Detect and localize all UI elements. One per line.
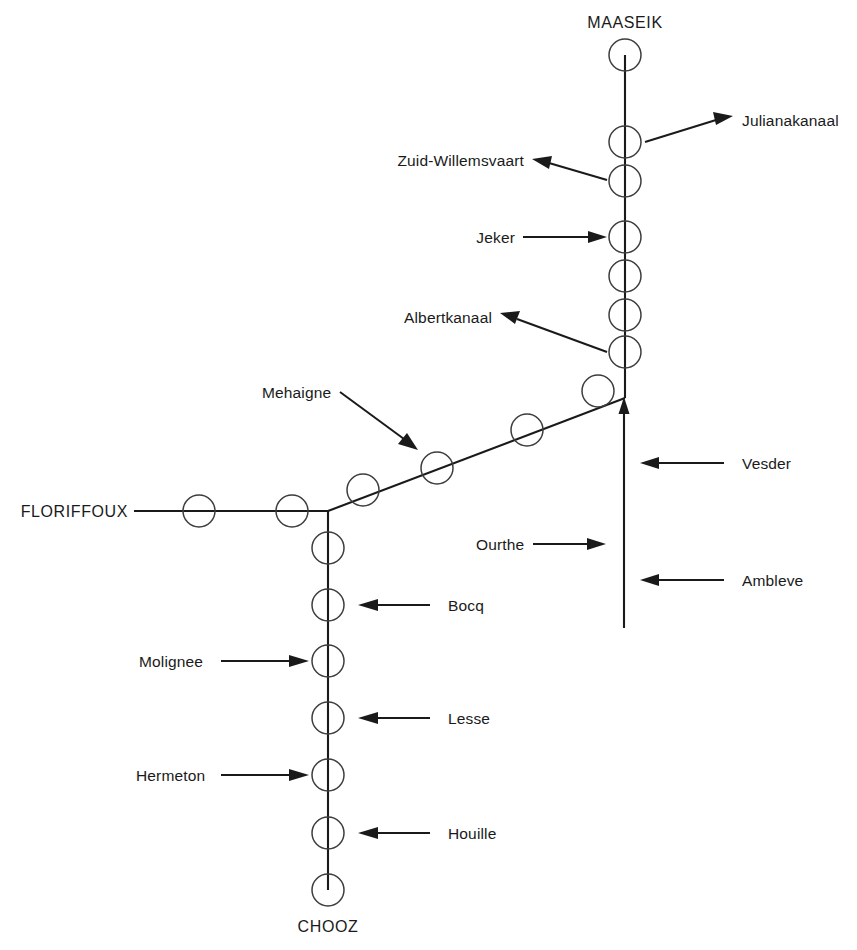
- ambleve-arrow-head: [640, 574, 659, 586]
- vesder-arrow-head: [640, 457, 659, 469]
- albertkanaal-arrow-head: [500, 311, 520, 324]
- tributary-label-ambleve: Ambleve: [742, 572, 803, 589]
- tributary-label-hermeton: Hermeton: [136, 767, 205, 784]
- albertkanaal-leader: [517, 319, 607, 352]
- tributary-label-molignee: Molignee: [139, 653, 203, 670]
- tributary-label-mehaigne: Mehaigne: [262, 384, 331, 401]
- tributary-label-ourthe: Ourthe: [476, 536, 524, 553]
- terminal-label-floriffoux: FLORIFFOUX: [21, 503, 128, 520]
- mehaigne-leader: [340, 392, 404, 439]
- river-schematic-diagram: MAASEIK FLORIFFOUX CHOOZ Julianakanaal Z…: [0, 0, 857, 950]
- tributary-label-vesder: Vesder: [742, 455, 791, 472]
- tributary-label-bocq: Bocq: [448, 597, 484, 614]
- hermeton-arrow-head: [289, 769, 309, 781]
- river-network: [134, 55, 630, 890]
- julianakanaal-arrow-head: [713, 112, 733, 125]
- bocq-arrow-head: [358, 599, 378, 611]
- diagram-labels: MAASEIK FLORIFFOUX CHOOZ Julianakanaal Z…: [21, 14, 839, 935]
- station-circle: [421, 452, 453, 484]
- julianakanaal-leader: [645, 120, 716, 142]
- zuid-willemsvaart-arrow-head: [532, 156, 552, 169]
- schematic-canvas: MAASEIK FLORIFFOUX CHOOZ Julianakanaal Z…: [0, 0, 857, 950]
- lesse-arrow-head: [358, 712, 378, 724]
- molignee-arrow-head: [289, 655, 309, 667]
- tributary-label-jeker: Jeker: [476, 229, 515, 246]
- leader-lines: [221, 112, 733, 839]
- tributary-label-lesse: Lesse: [448, 710, 490, 727]
- tributary-label-zuid-willemsvaart: Zuid-Willemsvaart: [397, 152, 524, 169]
- houille-arrow-head: [358, 827, 378, 839]
- zuid-willemsvaart-leader: [549, 163, 607, 180]
- station-circle: [347, 474, 379, 506]
- jeker-arrow-head: [588, 231, 607, 243]
- terminal-label-chooz: CHOOZ: [298, 918, 359, 935]
- tributary-label-albertkanaal: Albertkanaal: [404, 309, 492, 326]
- tributary-label-julianakanaal: Julianakanaal: [742, 112, 839, 129]
- mehaigne-arrow-head: [398, 433, 418, 450]
- station-circle: [582, 375, 614, 407]
- tributary-label-houille: Houille: [448, 825, 496, 842]
- ourthe-arrow-head: [587, 538, 606, 550]
- terminal-label-maaseik: MAASEIK: [587, 14, 662, 31]
